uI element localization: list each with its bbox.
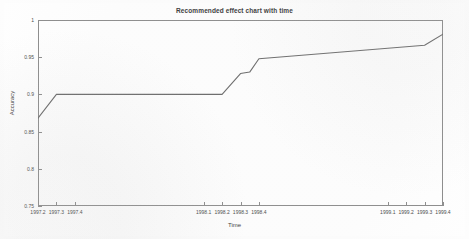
x-tick-mark	[443, 202, 444, 206]
accuracy-line-series	[38, 34, 443, 118]
y-tick-mark	[38, 94, 42, 95]
y-tick-mark	[38, 20, 42, 21]
x-tick-label: 1998.2	[214, 209, 229, 215]
x-tick-mark	[241, 202, 242, 206]
x-tick-label: 1998.4	[251, 209, 266, 215]
x-tick-label: 1997.3	[49, 209, 64, 215]
x-tick-mark	[425, 202, 426, 206]
x-tick-mark	[38, 202, 39, 206]
x-tick-mark	[388, 202, 389, 206]
x-tick-mark	[259, 202, 260, 206]
x-tick-label: 1997.4	[67, 209, 82, 215]
y-tick-mark	[38, 206, 42, 207]
x-tick-mark	[204, 202, 205, 206]
y-tick-mark	[38, 169, 42, 170]
x-tick-label: 1998.3	[233, 209, 248, 215]
y-tick-label: 0.95	[8, 54, 34, 60]
x-tick-label: 1999.4	[435, 209, 450, 215]
y-axis-title: Accuracy	[9, 73, 15, 133]
chart-title: Recommended effect chart with time	[0, 7, 469, 14]
figure-canvas: Recommended effect chart with time 0.750…	[0, 0, 469, 239]
x-tick-mark	[56, 202, 57, 206]
x-tick-label: 1999.1	[380, 209, 395, 215]
x-tick-label: 1999.3	[417, 209, 432, 215]
x-tick-label: 1998.1	[196, 209, 211, 215]
y-tick-mark	[38, 57, 42, 58]
y-tick-label: 1	[8, 17, 34, 23]
x-tick-mark	[406, 202, 407, 206]
x-tick-mark	[222, 202, 223, 206]
y-tick-label: 0.8	[8, 166, 34, 172]
x-tick-label: 1997.2	[30, 209, 45, 215]
x-axis-title: Time	[0, 222, 469, 228]
data-line-layer	[38, 20, 443, 206]
x-tick-label: 1999.2	[399, 209, 414, 215]
x-tick-mark	[75, 202, 76, 206]
y-tick-mark	[38, 132, 42, 133]
